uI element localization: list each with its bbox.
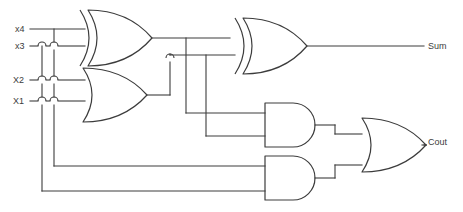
gate-or1 [83, 68, 147, 122]
and1-body [265, 103, 315, 147]
hop-X2-b [50, 76, 58, 80]
hop-X1-b [50, 97, 58, 101]
xor1-back-arc [80, 10, 89, 66]
input-label-X1: X1 [13, 96, 24, 106]
xor2-back-arc [235, 18, 244, 74]
output-label-cout: Cout [428, 137, 448, 147]
hop-x3-a [38, 42, 46, 46]
hop-x3-b [50, 42, 58, 46]
gate-or2 [362, 118, 426, 172]
or1-body [83, 68, 147, 122]
gate-and2 [265, 156, 315, 200]
or2-body [362, 118, 426, 172]
input-label-x4: x4 [15, 24, 25, 34]
and2-body [265, 156, 315, 200]
xor1-body [88, 10, 152, 66]
input-label-X2: X2 [13, 75, 24, 85]
input-label-x3: x3 [15, 41, 25, 51]
circuit-canvas: x4 x3 X2 X1 [0, 0, 463, 212]
hop-X1-a [38, 97, 46, 101]
logic-circuit-diagram: x4 x3 X2 X1 [0, 0, 463, 212]
gate-xor2 [235, 18, 307, 74]
gate-and1 [265, 103, 315, 147]
output-label-sum: Sum [428, 41, 447, 51]
hop-X2-a [38, 76, 46, 80]
gate-xor1 [80, 10, 152, 66]
xor2-body [243, 18, 307, 74]
